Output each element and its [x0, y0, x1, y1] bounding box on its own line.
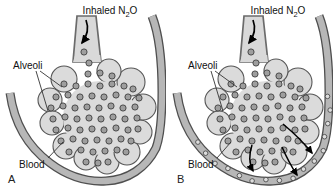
n2o-gas-molecule-icon	[244, 127, 250, 133]
n2o-gas-molecule-icon	[110, 114, 116, 120]
n2o-gas-molecule-icon	[89, 126, 95, 132]
n2o-gas-molecule-icon	[109, 81, 115, 87]
n2o-gas-molecule-icon	[120, 105, 126, 111]
n2o-in-blood-molecule-icon	[328, 108, 333, 113]
panel-b-diagram: Inhaled N2O Alveoli Blood B	[167, 0, 333, 194]
n2o-gas-molecule-icon	[299, 104, 305, 110]
inhaled-n2o-label-text: Inhaled N	[251, 5, 294, 16]
n2o-gas-molecule-icon	[301, 115, 307, 121]
n2o-gas-molecule-icon	[113, 125, 119, 131]
alveolus-lobe	[51, 66, 77, 92]
inhaled-n2o-label-text: O	[130, 5, 138, 16]
n2o-gas-molecule-icon	[268, 127, 274, 133]
n2o-gas-molecule-icon	[220, 127, 226, 133]
n2o-in-blood-molecule-icon	[277, 178, 282, 183]
n2o-gas-molecule-icon	[78, 147, 84, 153]
n2o-gas-molecule-icon	[297, 86, 303, 92]
n2o-gas-molecule-icon	[101, 127, 107, 133]
n2o-gas-molecule-icon	[122, 116, 128, 122]
n2o-in-blood-molecule-icon	[291, 176, 296, 181]
n2o-gas-molecule-icon	[253, 115, 259, 121]
n2o-gas-molecule-icon	[101, 94, 107, 100]
n2o-gas-molecule-icon	[248, 49, 254, 55]
n2o-gas-molecule-icon	[241, 116, 247, 122]
blood-label: Blood	[188, 159, 214, 170]
alveolus-lobe	[218, 66, 244, 92]
n2o-gas-molecule-icon	[272, 159, 278, 165]
n2o-in-blood-molecule-icon	[326, 121, 331, 126]
n2o-gas-molecule-icon	[233, 149, 239, 155]
n2o-gas-molecule-icon	[215, 105, 221, 111]
panel-letter-a: A	[8, 173, 16, 185]
n2o-gas-molecule-icon	[102, 148, 108, 154]
n2o-gas-molecule-icon	[251, 104, 257, 110]
n2o-in-blood-molecule-icon	[203, 151, 208, 156]
n2o-gas-molecule-icon	[249, 138, 255, 144]
n2o-gas-molecule-icon	[269, 148, 275, 154]
n2o-gas-molecule-icon	[132, 104, 138, 110]
n2o-in-blood-molecule-icon	[237, 173, 242, 178]
blood-label: Blood	[19, 159, 45, 170]
n2o-gas-molecule-icon	[108, 103, 114, 109]
n2o-gas-molecule-icon	[109, 73, 115, 79]
n2o-gas-molecule-icon	[232, 125, 238, 131]
n2o-gas-molecule-icon	[85, 71, 91, 77]
figure: Inhaled N2O Alveoli Blood A Inhaled N2O …	[0, 0, 333, 194]
n2o-gas-molecule-icon	[253, 60, 259, 66]
n2o-gas-molecule-icon	[98, 116, 104, 122]
inhaled-n2o-label-text: O	[298, 5, 306, 16]
n2o-gas-molecule-icon	[86, 60, 92, 66]
n2o-gas-molecule-icon	[261, 137, 267, 143]
n2o-gas-molecule-icon	[86, 115, 92, 121]
n2o-gas-molecule-icon	[128, 138, 134, 144]
n2o-gas-molecule-icon	[94, 137, 100, 143]
n2o-gas-molecule-icon	[288, 83, 294, 89]
n2o-gas-molecule-icon	[77, 127, 83, 133]
n2o-gas-molecule-icon	[232, 92, 238, 98]
n2o-gas-molecule-icon	[74, 116, 80, 122]
n2o-gas-molecule-icon	[275, 103, 281, 109]
n2o-in-blood-molecule-icon	[321, 148, 326, 153]
n2o-gas-molecule-icon	[273, 138, 279, 144]
n2o-gas-molecule-icon	[244, 94, 250, 100]
n2o-gas-molecule-icon	[252, 71, 258, 77]
n2o-gas-molecule-icon	[287, 105, 293, 111]
n2o-gas-molecule-icon	[292, 94, 298, 100]
alveolus-lobe	[40, 111, 64, 135]
n2o-gas-molecule-icon	[48, 105, 54, 111]
n2o-gas-molecule-icon	[302, 126, 308, 132]
n2o-gas-molecule-icon	[65, 125, 71, 131]
n2o-gas-molecule-icon	[217, 116, 223, 122]
n2o-gas-molecule-icon	[280, 92, 286, 98]
n2o-in-blood-molecule-icon	[250, 179, 255, 184]
n2o-gas-molecule-icon	[65, 92, 71, 98]
n2o-gas-molecule-icon	[285, 136, 291, 142]
panel-a-art	[10, 16, 162, 181]
n2o-gas-molecule-icon	[96, 105, 102, 111]
n2o-gas-molecule-icon	[50, 116, 56, 122]
alveoli-label: Alveoli	[13, 60, 42, 71]
n2o-gas-molecule-icon	[58, 138, 64, 144]
n2o-gas-molecule-icon	[265, 116, 271, 122]
n2o-gas-molecule-icon	[130, 86, 136, 92]
panel-letter-b: B	[177, 173, 184, 185]
n2o-gas-molecule-icon	[125, 94, 131, 100]
n2o-gas-molecule-icon	[268, 94, 274, 100]
n2o-gas-molecule-icon	[125, 127, 131, 133]
n2o-gas-molecule-icon	[73, 83, 79, 89]
n2o-gas-molecule-icon	[106, 138, 112, 144]
n2o-gas-molecule-icon	[61, 81, 67, 87]
n2o-gas-molecule-icon	[240, 83, 246, 89]
alveolus-lobe	[207, 111, 231, 135]
n2o-gas-molecule-icon	[123, 149, 129, 155]
n2o-gas-molecule-icon	[277, 114, 283, 120]
n2o-gas-molecule-icon	[290, 149, 296, 155]
n2o-gas-molecule-icon	[89, 93, 95, 99]
n2o-gas-molecule-icon	[262, 160, 268, 166]
n2o-gas-molecule-icon	[289, 116, 295, 122]
n2o-gas-molecule-icon	[66, 149, 72, 155]
n2o-gas-molecule-icon	[113, 92, 119, 98]
n2o-gas-molecule-icon	[77, 94, 83, 100]
n2o-gas-molecule-icon	[276, 73, 282, 79]
n2o-in-blood-molecule-icon	[226, 166, 231, 171]
